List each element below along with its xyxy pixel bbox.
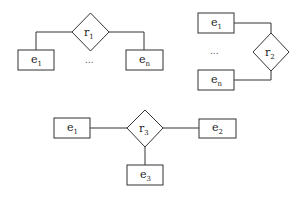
connector-r2-en [234,71,271,80]
relationship-diamond-r1 [72,13,109,51]
relationship-diamond-r2 [253,33,289,71]
connector-r2-e1 [234,23,271,33]
er-diagram-canvas: r1 e1 en ... r2 e1 en ... r3 e1 e2 e3 [0,0,304,199]
connector-r1-e1 [36,32,72,50]
connector-r1-en [109,32,144,50]
ellipsis: ... [85,55,94,65]
ellipsis: ... [210,46,219,56]
diagram-r2: r2 e1 en ... [198,13,289,90]
diagram-r3: r3 e1 e2 e3 [54,110,236,185]
diagram-r1: r1 e1 en ... [18,13,163,70]
